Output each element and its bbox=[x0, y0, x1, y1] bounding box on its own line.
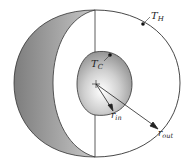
spherical-shell-diagram: TH TC rin rout bbox=[0, 0, 185, 165]
label-t-h: TH bbox=[151, 10, 165, 23]
inner-sphere bbox=[77, 51, 132, 115]
label-r-out: rout bbox=[158, 128, 173, 140]
